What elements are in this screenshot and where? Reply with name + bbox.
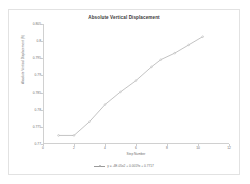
x-tick-label: 12 [227,146,231,150]
data-point-marker [202,36,204,38]
x-tick-label: 8 [166,146,168,150]
legend-label: y = -4E-05x2 + 0.0019x + 0.7717 [107,164,154,168]
x-axis-title: Step Number [43,152,229,156]
chart-frame: Absolute Vertical Displacement Absolute … [8,9,240,175]
y-tick-label: 0.775 [33,125,41,129]
data-point-marker [160,59,162,61]
x-tick-label: 10 [196,146,200,150]
x-tick-label: 0 [42,146,44,150]
chart-title: Absolute Vertical Displacement [9,15,239,20]
x-tick-label: 6 [135,146,137,150]
series-line [59,37,203,136]
x-tick-label: 2 [73,146,75,150]
data-point-marker [188,44,190,46]
series-layer [43,24,229,144]
data-point-marker [151,66,153,68]
data-point-marker [104,104,106,106]
y-tick-label: 0.805 [33,22,41,26]
y-tick-label: 0.795 [33,56,41,60]
data-point-marker [73,135,75,137]
series-line-swatch [94,166,105,167]
plot-area: 0.770.7750.780.7850.790.7950.80.805 0246… [43,24,229,144]
data-point-marker [120,91,122,93]
data-point-marker [135,80,137,82]
data-point-marker [58,135,60,137]
y-axis-title: Absolute Vertical Displacement (ft) [21,35,25,84]
y-tick-label: 0.79 [35,73,41,77]
y-tick-label: 0.78 [35,108,41,112]
y-tick-label: 0.8 [36,39,41,43]
data-point-marker [174,52,176,54]
data-point-marker [89,121,91,123]
y-tick-label: 0.77 [35,142,41,146]
x-tick-label: 4 [104,146,106,150]
y-tick-label: 0.785 [33,91,41,95]
chart-legend: y = -4E-05x2 + 0.0019x + 0.7717 [9,164,239,168]
